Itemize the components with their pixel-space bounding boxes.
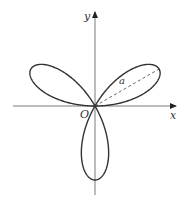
- rose-curve-diagram: y x O a: [0, 0, 188, 204]
- diagram-canvas: y x O a: [0, 0, 188, 204]
- radius-label: a: [119, 75, 125, 86]
- y-axis-label: y: [83, 10, 91, 23]
- origin-label: O: [80, 108, 89, 121]
- x-axis-label: x: [170, 109, 177, 122]
